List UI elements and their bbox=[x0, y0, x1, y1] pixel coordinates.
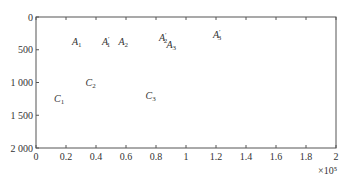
y-axis: 05001 0001 5002 000 bbox=[11, 12, 40, 154]
line-chart: 00.20.40.60.811.21.41.61.82 05001 0001 5… bbox=[0, 0, 346, 181]
y-tick-label: 1 000 bbox=[11, 77, 34, 88]
curve-label-a1: A1 bbox=[71, 36, 82, 49]
curve-label-c3: C3 bbox=[146, 90, 157, 103]
x-tick-label: 0.4 bbox=[90, 151, 103, 162]
x-tick-label: 1.8 bbox=[300, 151, 313, 162]
y-tick-label: 500 bbox=[18, 44, 33, 55]
curve-annotations: A1A′1A2A′2A3A′3C1C2C3 bbox=[54, 28, 222, 106]
x-tick-label: 1 bbox=[184, 151, 189, 162]
x-tick-label: 0.8 bbox=[150, 151, 163, 162]
curve-label-a2: A2 bbox=[118, 36, 129, 49]
x-axis: 00.20.40.60.811.21.41.61.82 bbox=[34, 17, 339, 162]
x-tick-label: 0 bbox=[34, 151, 39, 162]
x-tick-label: 0.2 bbox=[60, 151, 73, 162]
curve-label-a3: A3 bbox=[166, 39, 177, 52]
y-tick-label: 2 000 bbox=[11, 143, 34, 154]
x-tick-label: 1.4 bbox=[240, 151, 253, 162]
curve-label-a1-prime: A′1 bbox=[101, 35, 111, 49]
curve-label-c2: C2 bbox=[86, 77, 97, 90]
y-tick-label: 0 bbox=[28, 12, 33, 23]
x-multiplier-label: ×10⁵ bbox=[318, 165, 337, 176]
x-tick-label: 2 bbox=[334, 151, 339, 162]
curve-label-a3-prime: A′3 bbox=[212, 28, 222, 42]
y-tick-label: 1 500 bbox=[11, 110, 34, 121]
x-tick-label: 1.6 bbox=[270, 151, 283, 162]
plot-frame bbox=[36, 17, 336, 148]
x-tick-label: 0.6 bbox=[120, 151, 133, 162]
x-tick-label: 1.2 bbox=[210, 151, 223, 162]
curve-label-c1: C1 bbox=[54, 93, 65, 106]
